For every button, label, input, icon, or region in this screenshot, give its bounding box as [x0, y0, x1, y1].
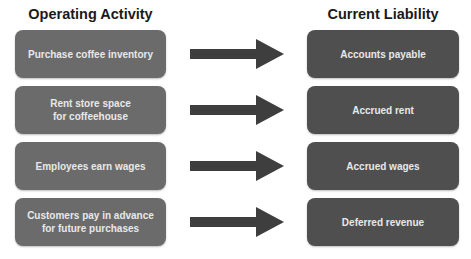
operating-activity-box: Rent store space for coffeehouse: [15, 86, 166, 134]
right-arrow-icon: [190, 150, 284, 182]
operating-activity-box: Purchase coffee inventory: [15, 30, 166, 78]
right-arrow-icon: [190, 206, 284, 238]
right-arrow-icon: [190, 94, 284, 126]
current-liability-header: Current Liability: [307, 6, 459, 22]
current-liability-label: Deferred revenue: [342, 216, 424, 229]
operating-activity-box: Employees earn wages: [15, 142, 166, 190]
operating-activity-label: Purchase coffee inventory: [28, 48, 153, 61]
right-arrow-icon: [190, 38, 284, 70]
current-liability-box: Accrued rent: [307, 86, 459, 134]
operating-activity-label: Employees earn wages: [35, 160, 145, 173]
current-liability-label: Accrued wages: [346, 160, 419, 173]
operating-activity-header: Operating Activity: [15, 6, 166, 22]
operating-activity-label: Customers pay in advance for future purc…: [27, 209, 154, 235]
operating-activity-label: Rent store space for coffeehouse: [50, 97, 131, 123]
current-liability-box: Deferred revenue: [307, 198, 459, 246]
current-liability-box: Accounts payable: [307, 30, 459, 78]
operating-activity-box: Customers pay in advance for future purc…: [15, 198, 166, 246]
current-liability-label: Accounts payable: [340, 48, 426, 61]
current-liability-label: Accrued rent: [352, 104, 414, 117]
current-liability-box: Accrued wages: [307, 142, 459, 190]
